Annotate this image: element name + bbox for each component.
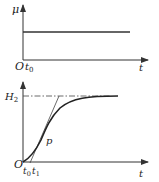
bottom-origin-label: O: [14, 158, 23, 171]
bottom-plot: H2 p O t0 t1 t: [4, 82, 148, 179]
bottom-t0-label: t0: [23, 166, 31, 178]
top-t0-label: t0: [25, 61, 34, 74]
h2-label: H2: [4, 91, 18, 104]
top-plot: μ O t0 t: [12, 3, 148, 74]
step-response-diagram: μ O t0 t H2 p O t0 t1 t: [0, 0, 159, 182]
inflection-point-p-label: p: [46, 135, 53, 146]
bottom-t1-label: t1: [32, 166, 40, 178]
tangent-line: [30, 96, 59, 163]
response-curve: [23, 96, 118, 162]
bottom-t-axis-label: t: [139, 168, 144, 179]
top-origin-label: O: [15, 60, 24, 73]
mu-label: μ: [12, 3, 19, 16]
top-t-axis-label: t: [139, 62, 144, 73]
